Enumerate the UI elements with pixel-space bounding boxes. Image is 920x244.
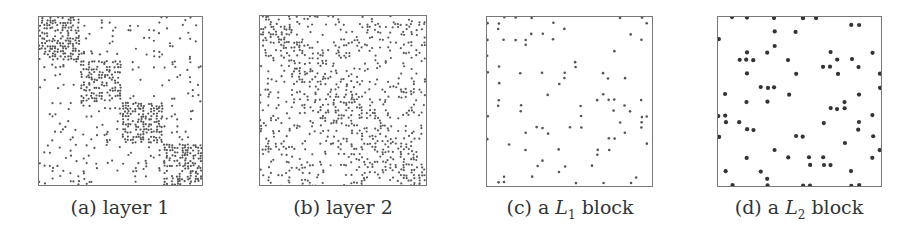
caption-c: (c) a L1 block	[455, 196, 685, 222]
caption-b: (b) layer 2	[228, 196, 458, 218]
adjacency-matrix-layer-1	[38, 16, 203, 186]
caption-a: (a) layer 1	[5, 196, 235, 218]
l2-block-matrix	[717, 16, 882, 187]
adjacency-matrix-layer-2	[259, 15, 427, 186]
l1-block-matrix	[486, 16, 653, 187]
caption-d: (d) a L2 block	[684, 196, 914, 222]
